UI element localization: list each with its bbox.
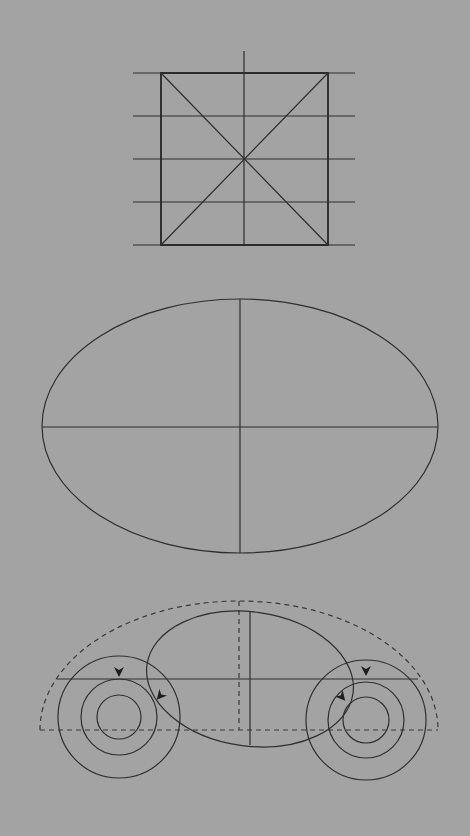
square-construction-figure [133,51,355,245]
right-wheel-inner [343,697,389,743]
arrow-down-icon [114,667,124,677]
right-wheel-outer [306,660,426,780]
diagram-canvas [0,0,470,836]
ellipse-axes-figure [42,299,438,553]
left-wheel-middle [81,679,157,755]
arrow-diagonal-icon [153,689,167,703]
arrow-down-icon [361,666,371,676]
right-wheel [306,660,426,780]
car-construction-figure [40,598,438,780]
arrow-diagonal-icon [335,690,349,704]
left-wheel-inner [97,695,141,739]
